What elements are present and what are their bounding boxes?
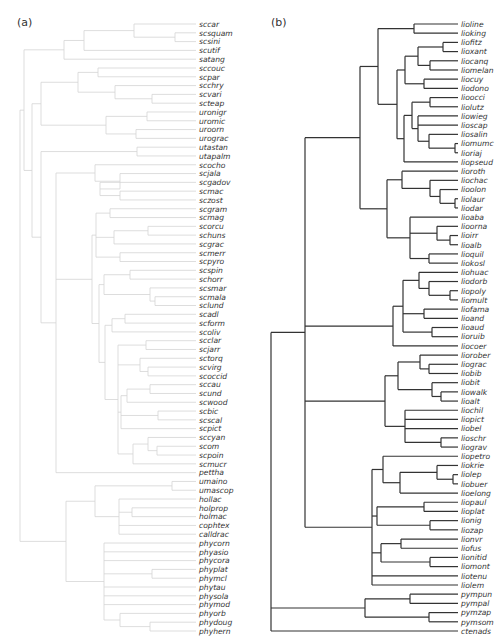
tip-label: liokrie: [461, 461, 484, 470]
tip-label: liotenu: [461, 572, 487, 581]
tip-label: liomelan: [461, 66, 494, 75]
tip-label: lionig: [461, 516, 482, 525]
tip-label: lioaba: [461, 213, 484, 222]
tip-label: lioriaj: [461, 149, 483, 158]
tip-label: ctenads: [461, 627, 491, 636]
tip-label: liofama: [461, 305, 490, 314]
tip-label: liobel: [461, 424, 482, 433]
tip-label: liofitz: [461, 38, 483, 47]
tip-label: lioscap: [461, 121, 488, 130]
tip-label: pymzap: [460, 608, 491, 617]
tip-label: liopaul: [461, 498, 487, 507]
tip-label: liomumc: [461, 139, 494, 148]
tip-label: lioquil: [461, 250, 485, 259]
tip-label: liobuer: [461, 480, 488, 489]
tip-label: lioolon: [461, 185, 486, 194]
tip-label: liograc: [461, 360, 487, 369]
tip-label: liograv: [461, 443, 487, 452]
tip-label: liohuac: [461, 268, 489, 277]
tip-label: pympal: [460, 599, 490, 608]
tip-label: lioand: [461, 314, 484, 323]
tip-label: liobit: [461, 378, 481, 387]
tip-label: liokosl: [461, 259, 486, 268]
tip-label: lioxant: [461, 47, 488, 56]
tip-label: lioalb: [461, 241, 482, 250]
tip-label: liocoer: [461, 342, 487, 351]
tip-label: liobib: [461, 369, 482, 378]
tip-label: lioroth: [461, 167, 486, 176]
tip-label: lionvr: [461, 535, 483, 544]
tip-label: liocuy: [461, 75, 484, 84]
tip-label: liowieg: [461, 112, 488, 121]
tip-label: liopetro: [461, 452, 490, 461]
tip-label: lioelong: [461, 489, 491, 498]
tip-label: lioking: [461, 29, 486, 38]
tip-label: lioplat: [461, 507, 485, 516]
tip-label: lioschr: [461, 434, 487, 443]
tip-label: liopict: [461, 415, 485, 424]
tip-label: liorober: [461, 351, 491, 360]
phylogenetic-tree-b: liolineliokingliofitzlioxantliocanqliome…: [0, 0, 500, 644]
tip-label: liomult: [461, 296, 488, 305]
tip-label: liodono: [461, 84, 489, 93]
tip-label: lioocci: [461, 93, 486, 102]
tip-label: pympun: [460, 590, 492, 599]
tip-label: liowalk: [461, 388, 488, 397]
tip-label: lioaud: [461, 323, 484, 332]
tip-label: liocanq: [461, 57, 489, 66]
tip-label: liolep: [461, 470, 482, 479]
tip-label: liochil: [461, 406, 484, 415]
tip-label: liopoly: [461, 287, 486, 296]
tip-label: liolaur: [461, 195, 485, 204]
tip-label: pymsom: [460, 618, 494, 627]
tip-label: lioruib: [461, 332, 485, 341]
tip-label: liopseud: [461, 158, 493, 167]
tip-label: liochac: [461, 176, 489, 185]
tip-label: liomont: [461, 562, 491, 571]
tip-label: liosalin: [461, 130, 488, 139]
tip-label: liolutz: [461, 103, 485, 112]
tip-label: lioalt: [461, 397, 481, 406]
tip-label: lioorna: [461, 222, 487, 231]
tip-label: liofus: [461, 544, 481, 553]
tip-label: lioirr: [461, 231, 479, 240]
tip-label: lioline: [461, 20, 484, 29]
tip-label: liozap: [461, 526, 484, 535]
tip-label: liolem: [461, 581, 484, 590]
tip-label: liodorb: [461, 277, 487, 286]
tip-label: lionitid: [461, 553, 487, 562]
tip-label: liodar: [461, 204, 483, 213]
